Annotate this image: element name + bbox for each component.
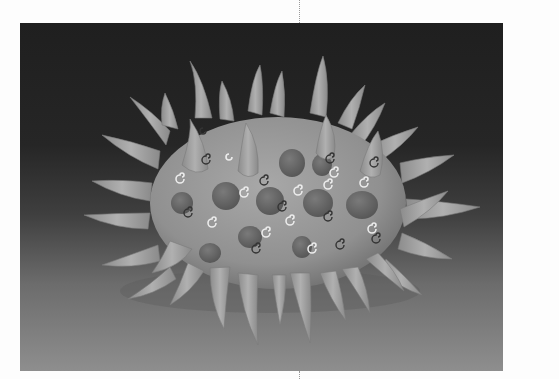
spiky-sculpture-illustration: [20, 23, 503, 371]
fold-line-bottom: [299, 371, 300, 379]
sculpture-photo: [20, 23, 503, 371]
fold-line-top: [299, 0, 300, 23]
